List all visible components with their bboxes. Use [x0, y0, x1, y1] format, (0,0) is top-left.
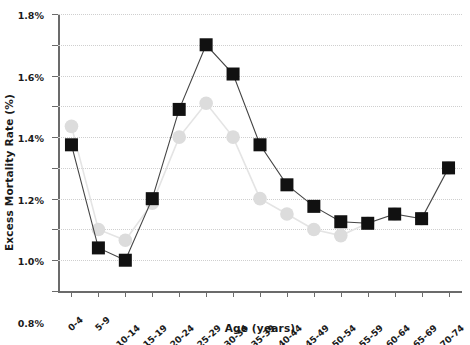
- y-tick-mark: 0.0%: [52, 291, 58, 292]
- x-tick-mark: [98, 291, 99, 297]
- data-point-marker: [146, 192, 159, 205]
- data-point-marker: [119, 233, 133, 247]
- excess-mortality-chart: Excess Mortality Rate (%) 0.0%0.2%0.4%0.…: [0, 0, 470, 345]
- data-point-marker: [415, 212, 428, 225]
- x-tick-mark: [125, 291, 126, 297]
- data-point-marker: [334, 215, 347, 228]
- x-tick-mark: [71, 291, 72, 297]
- x-tick-mark: [395, 291, 396, 297]
- data-point-marker: [254, 138, 267, 151]
- data-point-marker: [280, 207, 294, 221]
- data-point-marker: [199, 96, 213, 110]
- data-point-marker: [388, 208, 401, 221]
- data-point-marker: [172, 130, 186, 144]
- y-tick-label: 0.8%: [18, 317, 44, 328]
- x-tick-label: 0-4: [79, 304, 98, 322]
- x-tick-mark: [179, 291, 180, 297]
- x-tick-mark: [206, 291, 207, 297]
- x-tick-mark: [233, 291, 234, 297]
- y-tick-label: 1.2%: [18, 194, 44, 205]
- series-line-dark-square-series: [71, 45, 448, 260]
- data-point-marker: [92, 241, 105, 254]
- data-series-layer: [58, 14, 462, 291]
- data-point-marker: [227, 68, 240, 81]
- data-point-marker: [119, 254, 132, 267]
- data-point-marker: [65, 120, 79, 134]
- x-axis-title: Age (years): [58, 322, 462, 334]
- data-point-marker: [280, 178, 293, 191]
- plot-area: 0.0%0.2%0.4%0.6%0.8%1.0%1.2%1.4%1.6%1.8%…: [58, 14, 462, 291]
- data-point-marker: [173, 103, 186, 116]
- data-point-marker: [226, 130, 240, 144]
- y-axis-title: Excess Mortality Rate (%): [0, 0, 18, 345]
- x-tick-mark: [422, 291, 423, 297]
- x-tick-mark: [152, 291, 153, 297]
- y-tick-label: 1.6%: [18, 71, 44, 82]
- x-tick-mark: [368, 291, 369, 297]
- x-tick-mark: [341, 291, 342, 297]
- x-tick-mark: [260, 291, 261, 297]
- x-tick-mark: [449, 291, 450, 297]
- y-tick-label: 1.4%: [18, 133, 44, 144]
- x-tick-mark: [314, 291, 315, 297]
- data-point-marker: [334, 229, 348, 243]
- x-tick-mark: [287, 291, 288, 297]
- data-point-marker: [361, 217, 374, 230]
- data-point-marker: [307, 200, 320, 213]
- data-point-marker: [200, 38, 213, 51]
- data-point-marker: [442, 161, 455, 174]
- y-tick-label: 1.0%: [18, 256, 44, 267]
- y-tick-label: 1.8%: [18, 10, 44, 21]
- data-point-marker: [307, 223, 321, 237]
- data-point-marker: [65, 138, 78, 151]
- x-tick-label: 5-9: [106, 304, 125, 322]
- data-point-marker: [253, 192, 267, 206]
